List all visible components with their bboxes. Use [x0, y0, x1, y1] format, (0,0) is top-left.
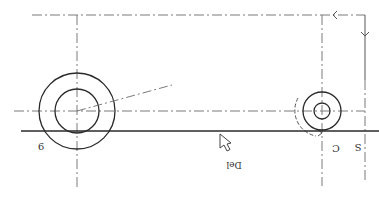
rotation-arc	[295, 98, 316, 136]
label-point-s: S	[354, 142, 361, 153]
technical-drawing: 9 C S Del	[0, 0, 379, 200]
label-point-c: C	[332, 143, 340, 154]
label-del: Del	[226, 160, 242, 170]
slanted-construction-line	[77, 85, 172, 111]
arrow-cursor-icon	[220, 134, 231, 151]
label-point-9: 9	[38, 141, 44, 152]
